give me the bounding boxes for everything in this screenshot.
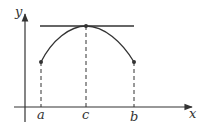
function-curve — [41, 26, 134, 62]
label-b: b — [130, 109, 138, 124]
rolle-diagram: y x a c b — [0, 0, 204, 131]
point-a — [39, 60, 43, 64]
y-axis-label: y — [14, 4, 23, 19]
x-axis-label: x — [189, 106, 197, 121]
label-c: c — [82, 107, 90, 122]
label-a: a — [37, 107, 45, 122]
point-b — [132, 60, 136, 64]
point-c — [84, 24, 88, 28]
